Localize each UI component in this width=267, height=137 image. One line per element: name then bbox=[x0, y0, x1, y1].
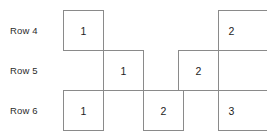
row-label-row-5: Row 5 bbox=[10, 66, 38, 76]
grid-cell-row6-col2: 2 bbox=[143, 90, 184, 131]
grid-cell-row6-col1: 1 bbox=[63, 90, 104, 131]
grid-cell-value: 1 bbox=[64, 105, 103, 116]
row-label-row-4: Row 4 bbox=[10, 26, 38, 36]
staircase-grid-diagram: Row 4 Row 5 Row 6 1 2 1 2 1 2 3 bbox=[0, 0, 267, 137]
grid-cell-value: 2 bbox=[219, 25, 244, 36]
row-label-row-6: Row 6 bbox=[10, 106, 38, 116]
grid-cell-row5-col2: 1 bbox=[103, 50, 144, 91]
grid-cell-value: 1 bbox=[64, 25, 103, 36]
grid-cell-value: 1 bbox=[104, 65, 143, 76]
grid-cell-value: 2 bbox=[179, 65, 218, 76]
grid-cell-row4-col4: 2 bbox=[218, 10, 267, 51]
grid-cell-value: 3 bbox=[219, 105, 244, 116]
grid-cell-value: 2 bbox=[144, 105, 183, 116]
grid-cell-row6-col4: 3 bbox=[218, 90, 267, 131]
grid-cell-row5-col3: 2 bbox=[178, 50, 219, 91]
grid-cell-row4-col1: 1 bbox=[63, 10, 104, 51]
